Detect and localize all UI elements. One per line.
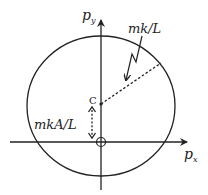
radius-dashed-line (101, 63, 161, 104)
center-label: C (89, 95, 97, 106)
py-axis-label: py (82, 7, 96, 25)
offset-label: mkA/L (34, 117, 77, 132)
px-axis-label: px (184, 146, 198, 164)
momentum-space-diagram: py px mk/L C mkA/L (0, 0, 208, 195)
radius-label: mk/L (128, 21, 161, 36)
